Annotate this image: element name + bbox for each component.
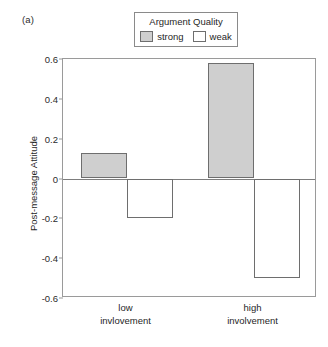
y-axis-tick-mark: [59, 138, 63, 139]
y-axis-tick-mark: [59, 98, 63, 99]
x-axis-group-label: highinvolvement: [193, 302, 313, 327]
y-axis-tick-mark: [59, 178, 63, 179]
bar-weak-low: [127, 179, 173, 219]
y-axis-tick-mark: [59, 59, 63, 60]
legend-label-strong: strong: [157, 31, 183, 42]
y-axis-tick-mark: [59, 298, 63, 299]
legend-label-weak: weak: [210, 31, 232, 42]
legend-swatch-strong-icon: [140, 31, 153, 42]
bar-weak-high: [254, 179, 300, 279]
x-axis-group-label: lowinvlovement: [66, 302, 186, 327]
legend-entries: strong weak: [137, 31, 235, 42]
plot-area: 0.60.40.20-0.2-0.4-0.6: [62, 58, 316, 297]
y-axis-title: Post-message Attitude: [28, 99, 39, 269]
x-axis-group-label-line2: involvement: [193, 315, 313, 328]
x-axis-group-label-line2: invlovement: [66, 315, 186, 328]
bar-strong-high: [208, 63, 254, 179]
x-axis-group-label-line1: high: [193, 302, 313, 315]
y-axis-tick-mark: [59, 218, 63, 219]
x-axis-group-label-line1: low: [66, 302, 186, 315]
legend: Argument Quality strong weak: [134, 12, 238, 47]
y-axis-tick-mark: [59, 258, 63, 259]
panel-label: (a): [22, 14, 34, 25]
figure-panel-a: (a) Argument Quality strong weak Post-me…: [0, 0, 328, 347]
legend-entry-strong: strong: [140, 31, 183, 42]
legend-title: Argument Quality: [137, 16, 235, 28]
legend-swatch-weak-icon: [193, 31, 206, 42]
bar-strong-low: [81, 153, 127, 179]
legend-entry-weak: weak: [193, 31, 232, 42]
